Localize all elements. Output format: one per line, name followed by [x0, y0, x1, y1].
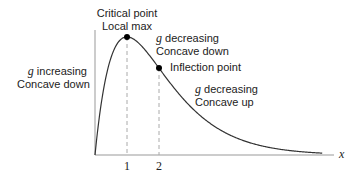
mid-text1: decreasing: [162, 32, 219, 44]
local-max-point: [124, 34, 130, 40]
tick-1: 1: [124, 159, 130, 174]
local-max-subtitle: Local max: [96, 20, 158, 33]
tick-2: 2: [156, 159, 162, 174]
left-text1: increasing: [34, 65, 87, 77]
left-annotation: g increasing Concave down: [17, 65, 87, 91]
mid-text2: Concave down: [156, 45, 229, 58]
mid-line1: g decreasing: [156, 32, 229, 45]
critical-point-label: Critical point Local max: [96, 7, 158, 33]
mid-annotation: g decreasing Concave down: [156, 32, 229, 58]
right-annotation: g decreasing Concave up: [195, 83, 258, 109]
inflection-point: [156, 65, 162, 71]
left-line1: g increasing: [17, 65, 87, 78]
right-text2: Concave up: [195, 96, 258, 109]
right-line1: g decreasing: [195, 83, 258, 96]
inflection-label: Inflection point: [170, 61, 241, 74]
left-text2: Concave down: [17, 78, 87, 91]
right-text1: decreasing: [201, 83, 258, 95]
critical-point-title: Critical point: [96, 7, 158, 20]
x-axis-label: x: [339, 147, 344, 162]
